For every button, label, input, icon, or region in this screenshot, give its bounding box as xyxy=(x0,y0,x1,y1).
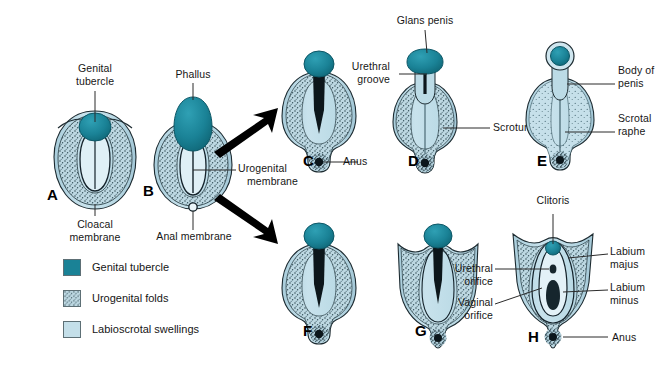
label-labium-minus-line1: Labium xyxy=(610,281,645,293)
genital-tubercle-f xyxy=(304,223,334,249)
label-anus-h: Anus xyxy=(612,331,636,344)
label-cloacal-membrane-line1: Cloacal xyxy=(77,218,113,230)
anus-f xyxy=(315,330,323,338)
stage-letter-c: C xyxy=(303,152,314,169)
label-scrotal-raphe: Scrotalraphe xyxy=(618,112,651,137)
label-body-of-penis-line2: penis xyxy=(618,77,644,89)
label-labium-minus-line2: minus xyxy=(610,294,639,306)
label-urogenital-membrane-line2: membrane xyxy=(247,175,298,188)
label-vaginal-orifice-line1: Vaginal xyxy=(458,296,493,308)
label-urethral-groove: Urethralgroove xyxy=(328,60,390,85)
label-labium-majus: Labiummajus xyxy=(610,245,645,270)
label-urethral-groove-line1: Urethral xyxy=(352,60,390,72)
label-vaginal-orifice: Vaginalorifice xyxy=(425,296,493,321)
label-urethral-orifice-line1: Urethral xyxy=(455,262,493,274)
stage-letter-e: E xyxy=(537,152,547,169)
label-phallus: Phallus xyxy=(143,68,243,81)
label-urethral-groove-line2: groove xyxy=(357,73,390,85)
stage-letter-a: A xyxy=(47,186,58,203)
legend-swatch-genital-tubercle xyxy=(63,259,81,276)
anus-g xyxy=(434,334,442,342)
label-clitoris: Clitoris xyxy=(503,194,603,207)
label-cloacal-membrane-line2: membrane xyxy=(70,231,121,243)
label-urethral-orifice: Urethralorifice xyxy=(425,262,493,287)
label-labium-minus: Labiumminus xyxy=(610,281,645,306)
label-body-of-penis: Body ofpenis xyxy=(618,64,654,89)
leaders-stage-a xyxy=(44,88,146,218)
label-labium-majus-line1: Labium xyxy=(610,245,645,257)
leader-glans-penis-d xyxy=(425,30,427,53)
legend-swatch-labioscrotal-swellings xyxy=(63,321,81,338)
stage-letter-d: D xyxy=(408,152,419,169)
genital-tubercle-g xyxy=(424,224,452,248)
label-vaginal-orifice-line2: orifice xyxy=(464,309,493,321)
arrow-down-right-shape xyxy=(214,194,278,244)
legend-label-labioscrotal-swellings: Labioscrotal swellings xyxy=(92,323,199,335)
stage-letter-g: G xyxy=(415,322,427,339)
leader-labium-minus-h xyxy=(563,290,608,292)
label-urethral-orifice-line2: orifice xyxy=(464,275,493,287)
label-anus-c: Anus xyxy=(343,155,367,168)
label-glans-penis: Glans penis xyxy=(373,14,477,27)
label-genital-tubercle-line1: Genital xyxy=(78,62,112,74)
stage-letter-f: F xyxy=(303,322,312,339)
genital-development-figure: Genitaltubercle Cloacalmembrane A Phallu… xyxy=(0,0,669,365)
leader-labium-majus-h xyxy=(568,254,608,258)
leader-vaginal-orifice-h xyxy=(495,288,542,304)
legend-swatch-urogenital-folds xyxy=(63,290,81,307)
label-scrotal-raphe-line2: raphe xyxy=(618,125,645,137)
label-cloacal-membrane: Cloacalmembrane xyxy=(45,218,145,243)
figure-stage-f xyxy=(274,222,364,347)
label-labium-majus-line2: majus xyxy=(610,258,639,270)
arrow-up-right-shape xyxy=(214,108,278,158)
legend-label-genital-tubercle: Genital tubercle xyxy=(92,261,169,273)
label-body-of-penis-line1: Body of xyxy=(618,64,654,76)
label-genital-tubercle-line2: tubercle xyxy=(76,75,114,87)
legend-label-urogenital-folds: Urogenital folds xyxy=(92,292,168,304)
stage-letter-b: B xyxy=(143,182,154,199)
label-genital-tubercle: Genitaltubercle xyxy=(45,62,145,87)
label-scrotal-raphe-line1: Scrotal xyxy=(618,112,651,124)
leaders-stage-d xyxy=(385,28,530,178)
stage-letter-h: H xyxy=(528,328,539,345)
